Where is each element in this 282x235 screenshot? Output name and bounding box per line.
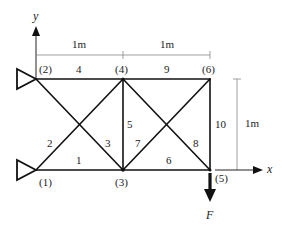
pin-support-icon-node-1 <box>17 160 36 180</box>
node-label-2: (2) <box>39 63 52 76</box>
dimension-right-span: 1m <box>160 38 175 50</box>
x-axis-arrow-icon <box>253 166 263 174</box>
member-label-4: 4 <box>76 63 82 75</box>
member-label-10: 10 <box>215 118 227 130</box>
node-3-dot <box>121 168 125 172</box>
member-label-6: 6 <box>166 154 172 166</box>
top-dimension: 1m 1m <box>36 38 210 59</box>
dimension-left-span: 1m <box>72 38 87 50</box>
member-label-8: 8 <box>193 137 199 149</box>
node-label-3: (3) <box>115 176 128 189</box>
x-axis-label: x <box>266 162 273 176</box>
y-axis-label: y <box>32 9 39 23</box>
dimension-height: 1m <box>245 117 260 129</box>
right-dimension: 1m <box>233 79 260 170</box>
force-arrow-icon <box>204 189 216 202</box>
node-label-6: (6) <box>202 63 215 76</box>
member-label-1: 1 <box>76 154 82 166</box>
node-label-4: (4) <box>115 63 128 76</box>
truss-members <box>36 79 210 170</box>
member-label-3: 3 <box>105 137 111 149</box>
member-label-7: 7 <box>135 137 141 149</box>
truss-diagram: y 1m 1m 1m x 1 2 3 4 5 6 <box>0 0 282 235</box>
y-axis-arrow-icon <box>32 26 40 36</box>
member-label-9: 9 <box>164 63 170 75</box>
node-4-dot <box>122 78 125 81</box>
pin-support-icon-node-2 <box>17 69 36 89</box>
member-label-5: 5 <box>127 118 133 130</box>
node-label-1: (1) <box>39 176 52 189</box>
force-label: F <box>205 208 214 222</box>
node-5-dot <box>209 169 212 172</box>
node-label-5: (5) <box>215 172 228 185</box>
member-label-2: 2 <box>47 137 53 149</box>
